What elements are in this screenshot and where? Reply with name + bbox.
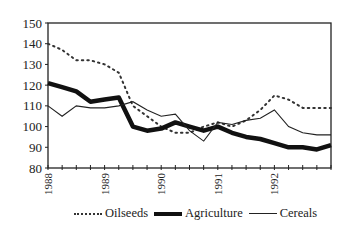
thin-line-swatch-icon <box>249 213 277 214</box>
legend-label: Agriculture <box>185 206 243 221</box>
x-tick-label: 1988 <box>42 173 54 196</box>
y-tick-label: 80 <box>29 161 42 176</box>
y-tick-label: 90 <box>29 140 42 155</box>
legend-item-oilseeds: Oilseeds <box>74 206 148 221</box>
line-chart: 8090100110120130140150198819891990199119… <box>0 0 349 236</box>
dotted-line-swatch-icon <box>74 213 102 215</box>
y-tick-label: 140 <box>23 36 43 51</box>
series-oilseeds <box>48 44 331 133</box>
legend-label: Oilseeds <box>105 206 148 221</box>
y-tick-label: 120 <box>23 78 43 93</box>
y-tick-label: 150 <box>23 16 43 31</box>
x-tick-label: 1989 <box>99 173 111 196</box>
y-tick-label: 130 <box>23 57 43 72</box>
y-tick-label: 100 <box>23 119 43 134</box>
thick-line-swatch-icon <box>154 212 182 216</box>
legend-item-cereals: Cereals <box>249 206 317 221</box>
y-tick-label: 110 <box>23 98 42 113</box>
series-cereals <box>48 102 331 141</box>
legend-item-agriculture: Agriculture <box>154 206 243 221</box>
series-agriculture <box>48 83 331 149</box>
x-tick-label: 1992 <box>268 173 280 195</box>
x-tick-label: 1991 <box>212 173 224 195</box>
series-lines <box>48 44 331 150</box>
legend: Oilseeds Agriculture Cereals <box>74 206 323 221</box>
legend-label: Cereals <box>280 206 317 221</box>
x-tick-label: 1990 <box>155 173 167 196</box>
axes: 8090100110120130140150198819891990199119… <box>23 16 332 196</box>
